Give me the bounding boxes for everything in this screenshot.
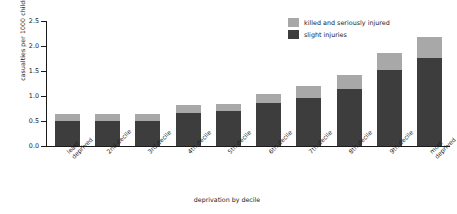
bar-segment-ksi[interactable] bbox=[135, 114, 160, 122]
y-axis-tick-label: 1.0 bbox=[0, 92, 39, 100]
legend-label: killed and seriously injured bbox=[304, 19, 390, 27]
bar-segment-ksi[interactable] bbox=[95, 114, 120, 121]
bar-group[interactable] bbox=[296, 86, 321, 147]
y-axis-tick-label: 0.0 bbox=[0, 142, 39, 150]
y-axis-tick bbox=[41, 21, 46, 22]
y-axis-tick-label: 0.5 bbox=[0, 117, 39, 125]
bar-segment-ksi[interactable] bbox=[176, 105, 201, 113]
chart-legend: killed and seriously injuredslight injur… bbox=[288, 18, 390, 42]
bar-group[interactable] bbox=[337, 75, 362, 146]
y-axis-tick bbox=[41, 46, 46, 47]
legend-item[interactable]: killed and seriously injured bbox=[288, 18, 390, 27]
bar-segment-ksi[interactable] bbox=[337, 75, 362, 89]
bar-segment-ksi[interactable] bbox=[417, 37, 442, 58]
y-axis-tick bbox=[41, 71, 46, 72]
bar-group[interactable] bbox=[377, 53, 402, 146]
legend-item[interactable]: slight injuries bbox=[288, 30, 390, 39]
y-axis-tick bbox=[41, 96, 46, 97]
bar-segment-ksi[interactable] bbox=[296, 86, 321, 99]
legend-swatch bbox=[288, 30, 299, 39]
bar-segment-slight[interactable] bbox=[377, 70, 402, 146]
y-axis-tick bbox=[41, 121, 46, 122]
bar-segment-slight[interactable] bbox=[417, 58, 442, 146]
y-axis-title: casualties per 1000 children bbox=[19, 0, 26, 106]
bar-segment-ksi[interactable] bbox=[55, 114, 80, 121]
y-axis-tick-label: 2.5 bbox=[0, 17, 39, 25]
bar-group[interactable] bbox=[417, 37, 442, 146]
bar-segment-ksi[interactable] bbox=[256, 94, 281, 104]
bar-segment-ksi[interactable] bbox=[377, 53, 402, 70]
x-axis-title: deprivation by decile bbox=[0, 196, 454, 203]
bar-segment-ksi[interactable] bbox=[216, 104, 241, 112]
y-axis-tick-label: 1.5 bbox=[0, 67, 39, 75]
y-axis-tick-label: 2.0 bbox=[0, 42, 39, 50]
legend-label: slight injuries bbox=[304, 31, 347, 39]
legend-swatch bbox=[288, 18, 299, 27]
